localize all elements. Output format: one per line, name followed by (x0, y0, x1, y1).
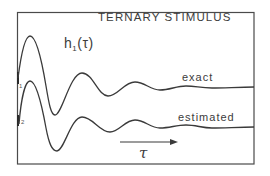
plot-area (0, 0, 270, 176)
exact-curve (18, 36, 254, 115)
tau-axis-label: τ (139, 146, 147, 161)
estimated-curve-label: estimated (178, 112, 235, 123)
figure-title: TERNARY STIMULUS (98, 12, 231, 24)
exact-curve-label: exact (182, 72, 213, 83)
curve-1-marker: 1 (19, 83, 22, 89)
function-label-argument: (τ) (77, 35, 93, 51)
function-label: h1(τ) (64, 36, 94, 53)
impulse-response-figure: TERNARY STIMULUS h1(τ) exact estimated 1… (0, 0, 270, 176)
curve-2-marker: 2 (21, 119, 24, 125)
tau-arrow-head-icon (170, 139, 178, 145)
